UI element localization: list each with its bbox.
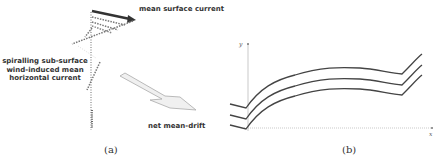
x-axis-label: x — [429, 130, 432, 137]
net-drift-label: net mean-drift — [148, 122, 205, 131]
y-axis-label: y — [239, 40, 242, 47]
spiral-arrow-1 — [92, 17, 125, 25]
caption-b: (b) — [342, 144, 356, 155]
caption-a: (a) — [104, 144, 118, 155]
net-drift-arrow — [120, 73, 196, 110]
spiral-arrow-2 — [92, 22, 118, 30]
arrowhead-icon — [127, 15, 136, 23]
x-axis-arrow-icon — [431, 127, 433, 129]
surface-current-label: mean surface current — [139, 5, 224, 14]
ekman-spiral-diagram — [0, 0, 220, 165]
y-axis-arrow-icon — [247, 43, 249, 45]
curve-plot — [220, 0, 439, 165]
subsurface-label-1: spiralling sub-surface — [0, 57, 90, 66]
panel-a-ekman-spiral: mean surface current spiralling sub-surf… — [0, 0, 220, 165]
subsurface-label-2: wind-induced mean — [0, 66, 90, 75]
panel-b-curves: y x (b) — [220, 0, 439, 165]
curve-upper — [230, 54, 422, 108]
subsurface-label-3: horizontal current — [0, 74, 90, 83]
curve-lower — [230, 75, 422, 129]
